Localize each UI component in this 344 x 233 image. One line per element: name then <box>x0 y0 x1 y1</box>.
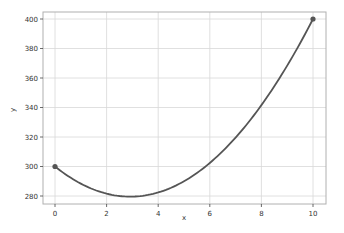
line-chart: 280300320340360380400 0246810 x y <box>0 0 344 233</box>
x-tick-label: 6 <box>208 210 213 218</box>
y-tick-label: 400 <box>25 16 38 24</box>
data-point-marker <box>310 16 315 21</box>
y-tick-label: 300 <box>25 163 38 171</box>
plot-area-frame <box>43 12 326 204</box>
x-tick-label: 10 <box>309 210 318 218</box>
data-point-marker <box>52 164 57 169</box>
x-axis-label: x <box>182 214 186 222</box>
y-tick-label: 280 <box>25 193 38 201</box>
y-tick-label: 380 <box>25 45 38 53</box>
y-tick-label: 320 <box>25 134 38 142</box>
x-tick-label: 4 <box>156 210 161 218</box>
x-tick-label: 2 <box>104 210 108 218</box>
y-axis-ticks: 280300320340360380400 <box>25 16 43 201</box>
y-axis-label: y <box>9 108 17 112</box>
endpoint-markers <box>52 16 315 169</box>
y-tick-label: 360 <box>25 75 38 83</box>
x-tick-label: 0 <box>53 210 57 218</box>
x-tick-label: 8 <box>259 210 263 218</box>
grid-lines <box>43 12 326 204</box>
y-tick-label: 340 <box>25 104 38 112</box>
